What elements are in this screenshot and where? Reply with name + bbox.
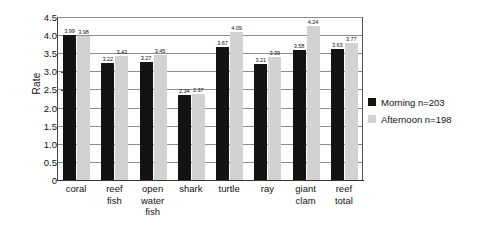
x-axis-label: reeftotal <box>322 183 366 206</box>
x-axis-label-line: fish <box>131 206 175 218</box>
bar-morning <box>216 47 229 180</box>
y-axis-tick-label: 4.5 <box>23 12 57 23</box>
bar-value-label: 2.37 <box>185 87 211 93</box>
x-axis-label-line: water <box>131 195 175 207</box>
bar-afternoon <box>192 94 205 180</box>
legend-item[interactable]: Morning n=203 <box>368 96 476 108</box>
bar-chart: Rate 00.51.01.52.02.53.03.54.04.5 3.993.… <box>0 0 477 236</box>
bar-value-label: 3.98 <box>71 29 97 35</box>
bar-group: 3.584.24 <box>287 17 325 180</box>
bar-afternoon <box>77 36 90 180</box>
bars-layer: 3.993.983.223.433.273.452.342.373.674.09… <box>57 17 363 180</box>
y-axis-tick-label: 1.0 <box>23 138 57 149</box>
y-axis-tick-label: 3.5 <box>23 48 57 59</box>
x-axis-label-line: reef <box>322 183 366 195</box>
y-axis-tick-label: 2.0 <box>23 102 57 113</box>
x-axis-category-labels: coralreeffishopenwaterfishsharkturtleray… <box>57 183 363 235</box>
bar-group: 3.213.39 <box>248 17 286 180</box>
x-axis-line <box>57 180 364 181</box>
bar-group: 3.223.43 <box>95 17 133 180</box>
bar-value-label: 3.77 <box>338 36 364 42</box>
y-axis-tick-label: 2.5 <box>23 84 57 95</box>
bar-group: 3.674.09 <box>210 17 248 180</box>
bar-afternoon <box>154 55 167 180</box>
bar-value-label: 3.43 <box>109 49 135 55</box>
y-axis-tick-label: 3.0 <box>23 66 57 77</box>
legend-swatch-icon <box>368 115 376 123</box>
y-axis-tick-labels: 00.51.01.52.02.53.03.54.04.5 <box>12 0 57 236</box>
y-axis-tick-label: 1.5 <box>23 120 57 131</box>
bar-morning <box>254 64 267 180</box>
bar-value-label: 4.09 <box>224 25 250 31</box>
bar-morning <box>178 95 191 180</box>
chart-legend: Morning n=203Afternoon n=198 <box>368 96 476 130</box>
y-axis-tick-label: 0.5 <box>23 156 57 167</box>
bar-afternoon <box>230 32 243 180</box>
bar-group: 3.633.77 <box>325 17 363 180</box>
bar-morning <box>63 35 76 180</box>
legend-swatch-icon <box>368 98 376 106</box>
bar-value-label: 4.24 <box>300 19 326 25</box>
x-axis-label-line: total <box>322 195 366 207</box>
bar-morning <box>293 50 306 180</box>
legend-label: Afternoon n=198 <box>381 114 452 125</box>
bar-afternoon <box>345 43 358 180</box>
bar-afternoon <box>268 57 281 180</box>
bar-value-label: 3.45 <box>147 48 173 54</box>
bar-morning <box>140 62 153 180</box>
y-axis-tick-label: 0 <box>23 175 57 186</box>
legend-item[interactable]: Afternoon n=198 <box>368 113 476 125</box>
y-axis-tick-label: 4.0 <box>23 30 57 41</box>
bar-group: 2.342.37 <box>172 17 210 180</box>
bar-afternoon <box>307 26 320 180</box>
bar-value-label: 3.39 <box>262 50 288 56</box>
bar-group: 3.273.45 <box>134 17 172 180</box>
bar-group: 3.993.98 <box>57 17 95 180</box>
bar-morning <box>101 63 114 180</box>
legend-label: Morning n=203 <box>381 97 445 108</box>
bar-morning <box>331 49 344 180</box>
bar-afternoon <box>115 56 128 180</box>
